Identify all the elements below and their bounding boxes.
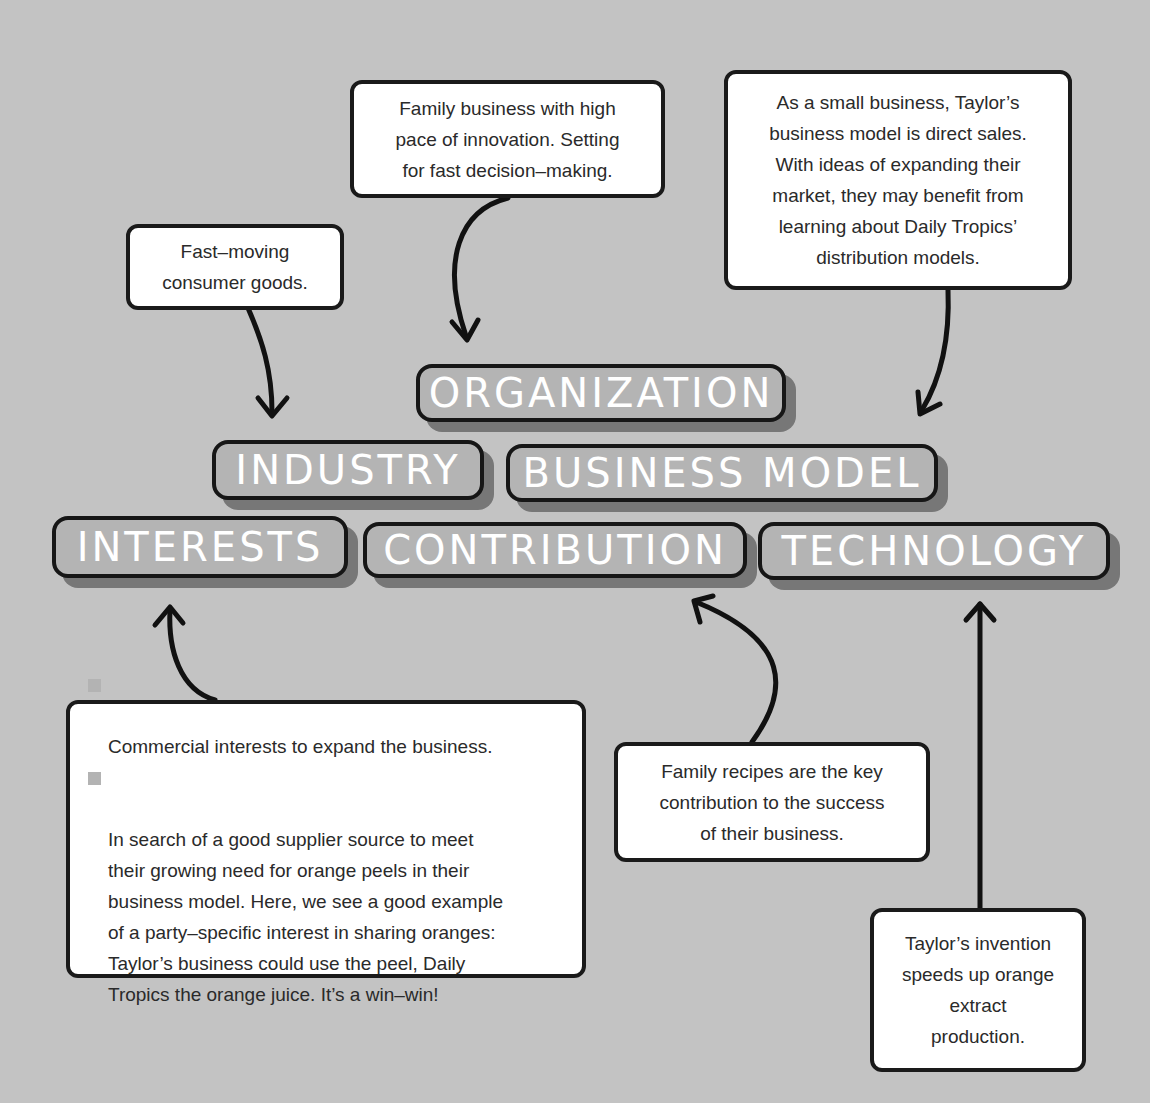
arrow-organization <box>455 198 508 336</box>
note-organization: Family business with high pace of innova… <box>350 80 665 198</box>
tag-contribution-label: CONTRIBUTION <box>383 530 727 570</box>
tag-technology-label: TECHNOLOGY <box>782 531 1087 571</box>
tag-interests-label: INTERESTS <box>77 527 324 567</box>
interests-bullet-text: Commercial interests to expand the busin… <box>108 736 492 757</box>
note-business-model: As a small business, Taylor’s business m… <box>724 70 1072 290</box>
bullet-square-icon <box>88 772 101 785</box>
concept-map: Fast–moving consumer goods. Family busin… <box>0 0 1150 1103</box>
note-technology: Taylor’s invention speeds up orange extr… <box>870 908 1086 1072</box>
tag-business-model: BUSINESS MODEL <box>506 444 938 502</box>
note-business-model-text: As a small business, Taylor’s business m… <box>769 87 1027 273</box>
note-industry: Fast–moving consumer goods. <box>126 224 344 310</box>
tag-business-model-label: BUSINESS MODEL <box>523 453 922 493</box>
tag-industry: INDUSTRY <box>212 440 484 500</box>
interests-bullet: Commercial interests to expand the busin… <box>86 669 503 762</box>
note-technology-text: Taylor’s invention speeds up orange extr… <box>902 928 1054 1052</box>
note-industry-text: Fast–moving consumer goods. <box>162 236 308 298</box>
tag-industry-label: INDUSTRY <box>235 450 460 490</box>
note-interests: Commercial interests to expand the busin… <box>66 700 586 978</box>
note-contribution: Family recipes are the key contribution … <box>614 742 930 862</box>
note-contribution-text: Family recipes are the key contribution … <box>660 756 885 849</box>
interests-bullet: In search of a good supplier source to m… <box>86 762 503 1010</box>
arrow-contribution <box>696 602 776 742</box>
tag-contribution: CONTRIBUTION <box>363 522 747 578</box>
tag-organization: ORGANIZATION <box>416 364 786 422</box>
interests-bullet-text: In search of a good supplier source to m… <box>108 829 503 1005</box>
tag-technology: TECHNOLOGY <box>758 522 1110 580</box>
tag-interests: INTERESTS <box>52 516 348 578</box>
arrow-business-model <box>922 290 948 410</box>
bullet-square-icon <box>88 679 101 692</box>
arrow-industry <box>248 308 272 412</box>
note-organization-text: Family business with high pace of innova… <box>396 93 620 186</box>
interests-bullet-list: Commercial interests to expand the busin… <box>86 669 503 1010</box>
tag-organization-label: ORGANIZATION <box>429 373 774 413</box>
